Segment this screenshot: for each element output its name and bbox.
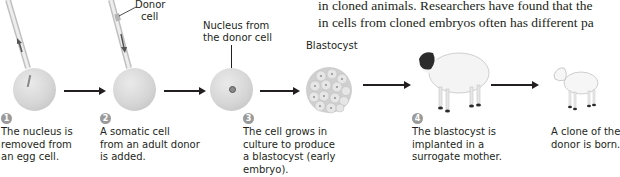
caption-line: culture to produce — [243, 139, 336, 152]
nucleus-label-line-2: the donor cell — [203, 32, 272, 45]
blastocyst-illustration — [305, 66, 353, 114]
step-4-badge: 4 — [412, 113, 423, 124]
caption-line: The nucleus is — [1, 126, 73, 139]
nucleus-icon — [229, 86, 236, 93]
donor-cell-label-line-1: Donor — [135, 0, 165, 12]
arrow-icon — [363, 84, 409, 86]
arrow-icon — [491, 84, 537, 86]
step-5-caption: A clone of the donor is born. — [551, 126, 620, 151]
egg-cell-with-donor — [113, 68, 156, 111]
arrow-icon — [260, 90, 298, 92]
arrow-icon — [64, 90, 104, 92]
caption-line: A clone of the — [551, 126, 620, 139]
body-text-line-1: in cloned animals. Researchers have foun… — [318, 0, 592, 14]
caption-line: donor is born. — [551, 139, 620, 152]
caption-line: A somatic cell — [100, 126, 200, 139]
caption-line: is added. — [100, 151, 200, 164]
caption-line: surrogate mother. — [412, 151, 502, 164]
surrogate-sheep-illustration — [415, 47, 495, 113]
caption-line: an egg cell. — [1, 151, 73, 164]
blastocyst-icon — [305, 66, 353, 114]
sheep-icon — [415, 47, 495, 113]
step-1-badge: 1 — [1, 113, 12, 124]
clone-lamb-illustration — [551, 63, 601, 111]
step-2-caption: A somatic cell from an adult donor is ad… — [100, 126, 200, 164]
arrow-icon — [164, 90, 204, 92]
caption-line: implanted in a — [412, 139, 502, 152]
caption-line: The cell grows in — [243, 126, 336, 139]
caption-line: from an adult donor — [100, 139, 200, 152]
step-1-caption: The nucleus is removed from an egg cell. — [1, 126, 73, 164]
caption-line: The blastocyst is — [412, 126, 502, 139]
body-text-line-2: in cells from cloned embryos often has d… — [318, 14, 594, 31]
egg-cell — [13, 68, 56, 111]
caption-line: a blastocyst (early — [243, 151, 336, 164]
caption-line: removed from — [1, 139, 73, 152]
caption-line: embryo). — [243, 164, 336, 177]
donor-cell-label-line-2: cell — [141, 11, 158, 24]
lamb-icon — [551, 63, 601, 111]
nucleus-label-line-1: Nucleus from — [203, 20, 269, 33]
step-2-badge: 2 — [100, 113, 111, 124]
step-4-caption: The blastocyst is implanted in a surroga… — [412, 126, 502, 164]
step-3-caption: The cell grows in culture to produce a b… — [243, 126, 336, 176]
step-3-badge: 3 — [243, 113, 254, 124]
blastocyst-label: Blastocyst — [306, 40, 358, 53]
